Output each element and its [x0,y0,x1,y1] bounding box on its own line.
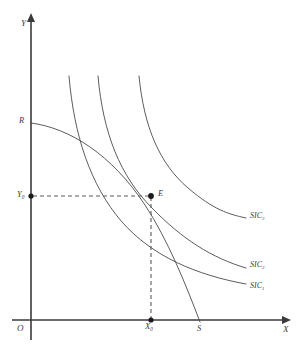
y-value-label: Y0 [17,190,24,199]
sic-curve-1 [69,76,246,284]
y-axis-arrowhead [27,13,35,22]
curve-label-sic-1-base: SIC [250,281,262,290]
curve-label-sic-2-base: SIC [250,260,262,269]
origin-label: O [17,324,24,333]
point-label-s: S [197,324,201,333]
curve-label-sic-3: SIC3 [250,212,264,220]
indifference-curve-diagram: Y X O R S E Y0 X0 SIC3 SIC2 SIC1 [0,0,305,352]
x-value-subscript: 0 [150,326,153,332]
point-label-e: E [158,189,163,198]
point-label-r: R [19,116,24,125]
y-value-subscript: 0 [22,194,25,200]
x-value-label: X0 [145,322,153,331]
curve-label-sic-2: SIC2 [250,261,264,269]
x-axis-arrowhead [282,316,291,324]
y-value-point [28,193,33,198]
equilibrium-point-e [148,193,154,199]
x-axis-label: X [283,325,289,334]
curve-label-sic-1: SIC1 [250,282,264,290]
diagram-canvas [0,0,305,352]
sic-curve-3 [139,76,246,218]
sic-curve-2 [98,76,246,268]
y-axis-label: Y [21,19,26,28]
curve-label-sic-3-base: SIC [250,211,262,220]
